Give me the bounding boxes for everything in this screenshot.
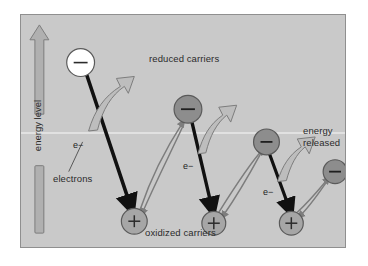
- diagram-panel: reduced carriers oxidized carriers energ…: [20, 14, 346, 248]
- label-energy-released-line1: energy: [303, 125, 333, 136]
- carrier-cycle-arrow-1a: [140, 122, 183, 209]
- label-oxidized-carriers: oxidized carriers: [145, 227, 216, 238]
- carrier-reduced-3: [254, 129, 280, 155]
- diagram-graphics: [21, 15, 345, 247]
- carrier-cycle-arrow-3a: [297, 179, 328, 213]
- carrier-cycle-arrow-1b: [142, 126, 183, 213]
- label-energy-released: energy released: [303, 125, 346, 149]
- carrier-reduced-4: [323, 160, 345, 184]
- label-energy-level-axis: energy level: [32, 98, 43, 154]
- carrier-oxidized-3: [279, 211, 303, 235]
- carrier-cycle-arrow-2b: [223, 154, 261, 216]
- carrier-cycle-arrow-3b: [299, 183, 326, 217]
- label-electrons: electrons: [53, 173, 92, 184]
- label-energy-released-line2: released: [303, 137, 340, 148]
- electron-transfer-arrow-1: [87, 74, 131, 205]
- energy-arrow-2: [198, 105, 237, 154]
- label-reduced-carriers: reduced carriers: [149, 53, 219, 64]
- carrier-cycle-arrow-2a: [219, 150, 263, 212]
- electron-marker-1: e−: [73, 140, 83, 150]
- figure-canvas: reduced carriers oxidized carriers energ…: [0, 0, 368, 266]
- carrier-reduced-1: [67, 49, 95, 77]
- carrier-oxidized-1: [121, 208, 147, 234]
- reduced-carriers-group: [67, 49, 345, 184]
- carrier-reduced-2: [174, 95, 202, 123]
- electron-marker-2: e−: [183, 161, 193, 171]
- electron-marker-3: e−: [263, 187, 273, 197]
